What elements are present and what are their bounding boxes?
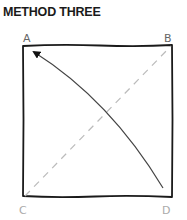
dashed-diagonal	[25, 46, 171, 196]
fold-diagram: A B C D	[0, 0, 187, 220]
corner-label-b: B	[164, 32, 172, 45]
corner-label-d: D	[162, 204, 170, 217]
corner-label-a: A	[23, 32, 31, 45]
corner-label-c: C	[19, 204, 27, 217]
